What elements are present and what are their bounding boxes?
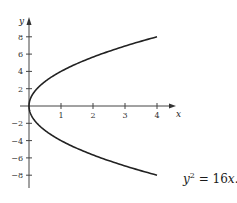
eq-rhs: = 16 — [199, 172, 228, 186]
eq-exponent: 2 — [190, 171, 195, 180]
y-tick-label: −8 — [11, 171, 23, 180]
y-tick-label: 8 — [18, 33, 23, 42]
x-axis-arrow-icon — [169, 104, 176, 109]
eq-var-x: x — [228, 172, 235, 186]
y-tick-label: −2 — [11, 119, 23, 128]
y-tick-label: −4 — [11, 137, 23, 146]
x-axis-label: x — [176, 109, 181, 119]
x-tick-label: 1 — [58, 111, 63, 120]
x-tick-label: 2 — [90, 111, 95, 120]
y-tick-label: 6 — [18, 50, 23, 59]
x-tick-label: 3 — [122, 111, 127, 120]
equation-annotation: y2 = 16x. — [183, 171, 237, 186]
y-tick-label: 2 — [18, 85, 23, 94]
y-tick-label: −6 — [11, 154, 23, 163]
eq-period: . — [235, 172, 237, 186]
x-tick-label: 4 — [154, 111, 159, 120]
y-axis-arrow-icon — [27, 17, 32, 25]
eq-var-y: y — [183, 172, 190, 186]
y-axis-label: y — [18, 16, 25, 26]
y-tick-label: 4 — [18, 67, 23, 76]
